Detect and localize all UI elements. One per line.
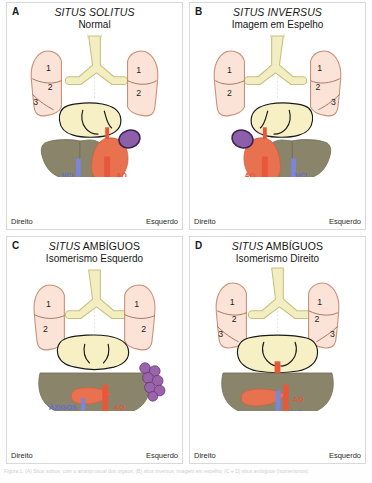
lung-right-bilobed: 1 2	[125, 285, 155, 350]
lobe-number: 2	[136, 88, 141, 98]
panel-d-artwork: 1 2 3 1 2 3	[190, 263, 365, 411]
aorta-vessel	[283, 385, 288, 411]
heart-icon	[57, 335, 128, 369]
side-label-right: Esquerdo	[329, 451, 361, 460]
panel-a-title-italic: SITUS SOLITUS	[54, 6, 134, 18]
heart-icon	[59, 103, 121, 137]
lobe-number: 1	[46, 63, 51, 73]
lobe-number: 2	[315, 82, 320, 92]
panel-a-artwork: 1 2 3 1 2	[7, 29, 182, 177]
lobe-number: 1	[134, 299, 139, 309]
panel-c-title: SITUS AMBÍGUOS Isomerismo Esquerdo	[7, 240, 182, 265]
lobe-number: 3	[218, 329, 223, 339]
side-label-left: Direito	[11, 451, 33, 460]
lobe-number: 3	[331, 97, 336, 107]
lung-right-bilobed: 1 2	[128, 51, 158, 116]
situs-figure: A SITUS SOLITUS Normal	[0, 0, 372, 483]
vessel-label-vci: VCI	[61, 171, 73, 177]
aorta-vessel	[102, 385, 108, 411]
vessel-label-ao: AO	[293, 395, 304, 404]
panel-grid: A SITUS SOLITUS Normal	[6, 2, 366, 464]
side-label-right: Esquerdo	[146, 451, 178, 460]
panel-d-title-roman: AMBÍGUOS	[263, 240, 323, 252]
side-label-left: Direito	[11, 217, 33, 226]
panel-d: D SITUS AMBÍGUOS Isomerismo Direito	[189, 236, 366, 464]
airway-icon	[244, 34, 306, 85]
lobe-number: 1	[230, 297, 235, 307]
lung-bilobed-mirrored	[214, 51, 244, 116]
lobe-number: 2	[314, 314, 319, 324]
lung-left-trilobed: 1 2 3	[31, 51, 61, 116]
lobe-number: 2	[43, 324, 48, 334]
panel-c-title-italic: SITUS	[49, 240, 80, 252]
lung-left-trilobed: 1 2 3	[216, 283, 246, 348]
panel-c: C SITUS AMBÍGUOS Isomerismo Esquerdo	[6, 236, 183, 464]
esophagus-stub	[275, 361, 281, 373]
panel-a: A SITUS SOLITUS Normal	[6, 2, 183, 230]
panel-d-title: SITUS AMBÍGUOS Isomerismo Direito	[190, 240, 365, 265]
esophagus-stub	[105, 127, 109, 139]
side-label-right: Esquerdo	[329, 217, 361, 226]
lobe-number: 2	[232, 314, 237, 324]
ivc-vessel	[276, 390, 281, 411]
airway-icon	[65, 270, 127, 319]
vessel-label-vci: VCI	[295, 171, 307, 177]
lung-right-trilobed: 1 2 3	[309, 283, 339, 348]
heart-icon	[251, 103, 313, 137]
lobe-number: 1	[317, 297, 322, 307]
side-label-left: Direito	[194, 217, 216, 226]
airway-icon	[65, 34, 127, 85]
lobe-number: 2	[48, 82, 53, 92]
airway-icon	[248, 268, 310, 319]
panel-b-artwork: 1 2 1 2 3 AO VCI	[190, 29, 365, 177]
azygos-vessel	[81, 398, 85, 411]
panel-b: B SITUS INVERSUS Imagem em Espelho	[189, 2, 366, 230]
vessel-label-azigos: ÁZIGOS	[49, 403, 77, 411]
panel-c-artwork: 1 2 1 2	[7, 263, 182, 411]
aorta-vessel	[104, 156, 110, 177]
panel-b-title: SITUS INVERSUS Imagem em Espelho	[190, 6, 365, 31]
vessel-label-ao: AO	[114, 403, 125, 411]
vessel-label-ao: AO	[116, 171, 127, 177]
lobe-number: 2	[141, 324, 146, 334]
lobe-number: 1	[46, 299, 51, 309]
esophagus-stub	[263, 127, 267, 139]
lobe-number: 3	[33, 97, 38, 107]
lobe-number: 1	[227, 65, 232, 75]
panel-b-title-italic: SITUS INVERSUS	[233, 6, 322, 18]
side-label-right: Esquerdo	[146, 217, 178, 226]
lobe-number: 1	[136, 65, 141, 75]
lobe-number: 3	[330, 329, 335, 339]
vessel-label-ao: AO	[244, 171, 255, 177]
lobe-number: 1	[317, 63, 322, 73]
panel-a-title: SITUS SOLITUS Normal	[7, 6, 182, 31]
lung-left-bilobed: 1 2	[34, 285, 64, 350]
panel-d-title-italic: SITUS	[232, 240, 263, 252]
vessel-label-vci: VCI	[291, 408, 303, 411]
panel-c-title-roman: AMBÍGUOS	[80, 240, 140, 252]
figure-caption: Figura 1. (A) Situs solitus, com o arran…	[4, 468, 368, 475]
ivc-vessel	[76, 158, 81, 177]
aorta-vessel	[262, 156, 268, 177]
lobe-number: 2	[227, 88, 232, 98]
side-label-left: Direito	[194, 451, 216, 460]
